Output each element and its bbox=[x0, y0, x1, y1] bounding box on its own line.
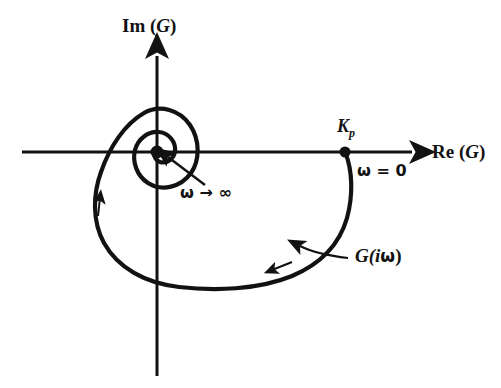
real-axis-label-suffix: ) bbox=[479, 141, 485, 162]
omega-infinity-label: ω → ∞ bbox=[180, 185, 232, 201]
direction-arrow-left bbox=[98, 198, 100, 216]
kp-label-subscript: p bbox=[349, 126, 355, 140]
real-axis-label-prefix: Re ( bbox=[432, 141, 465, 162]
nyquist-plot-canvas bbox=[0, 0, 501, 388]
imaginary-axis-label: Im (G) bbox=[122, 16, 176, 35]
transfer-function-label-g: G( bbox=[355, 245, 375, 266]
direction-arrow-lower bbox=[272, 262, 292, 270]
real-axis-label: Re (G) bbox=[432, 142, 485, 161]
imaginary-axis-label-symbol: G bbox=[156, 15, 170, 36]
transfer-function-label: G(iω) bbox=[355, 246, 401, 265]
origin-terminus-dot bbox=[151, 146, 164, 159]
real-axis-label-symbol: G bbox=[465, 141, 479, 162]
imaginary-axis-label-suffix: ) bbox=[170, 15, 176, 36]
kp-point-dot bbox=[340, 147, 351, 158]
nyquist-plot-figure: Im (G) Re (G) Kp ω = 0 ω → ∞ G(iω) bbox=[0, 0, 501, 388]
omega-zero-label: ω = 0 bbox=[357, 163, 407, 179]
transfer-function-label-suffix: ) bbox=[395, 245, 401, 266]
imaginary-axis-label-prefix: Im ( bbox=[122, 15, 156, 36]
transfer-function-label-omega: ω bbox=[380, 246, 395, 266]
kp-label: Kp bbox=[337, 117, 355, 139]
kp-label-symbol: K bbox=[337, 116, 349, 136]
